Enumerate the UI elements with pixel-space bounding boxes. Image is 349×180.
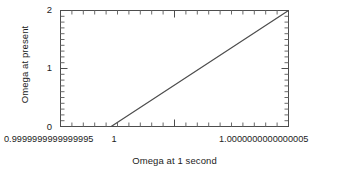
y-tick-label-2: 2	[12, 5, 52, 15]
y-minor-ticks	[61, 16, 289, 120]
axis-frame	[61, 11, 289, 127]
x-major-ticks	[61, 11, 289, 127]
plot-area	[60, 10, 289, 127]
x-minor-ticks	[72, 11, 277, 127]
y-major-ticks	[61, 11, 289, 127]
y-tick-label-1: 1	[12, 63, 52, 73]
x-tick-label-left: 0.9999999999999995	[4, 135, 93, 144]
x-axis-title: Omega at 1 second	[60, 155, 289, 166]
data-series-line	[111, 11, 288, 127]
chart-figure: Omega at present 2 1 0	[0, 0, 349, 180]
y-tick-label-0: 0	[12, 122, 52, 132]
plot-canvas	[60, 10, 289, 127]
x-tick-label-center: 1	[99, 135, 129, 144]
x-tick-label-right: 1.0000000000000005	[219, 135, 308, 144]
